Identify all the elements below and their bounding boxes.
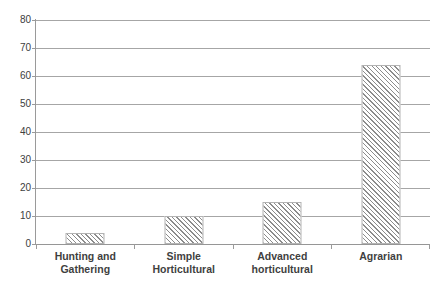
category-tick-3 (331, 244, 332, 249)
x-label-agrarian: Agrarian (332, 250, 431, 263)
y-tick-label-80: 80 (3, 15, 31, 25)
y-tick-label-60: 60 (3, 71, 31, 81)
y-tick-label-70: 70 (3, 43, 31, 53)
y-tick-label-40: 40 (3, 127, 31, 137)
x-label-line-1: Agrarian (332, 250, 431, 263)
y-tick-label-10: 10 (3, 211, 31, 221)
bar-band-advanced-horticultural (233, 20, 332, 244)
x-label-line-2: horticultural (233, 263, 332, 276)
category-tick-0 (36, 244, 37, 249)
bar-band-simple-horticultural (135, 20, 234, 244)
y-tick-label-20: 20 (3, 183, 31, 193)
plot-area (36, 20, 430, 244)
x-label-line-1: Hunting and (36, 250, 135, 263)
category-tick-2 (233, 244, 234, 249)
x-axis-labels: Hunting and Gathering Simple Horticultur… (36, 250, 430, 288)
y-tick-label-0: 0 (3, 239, 31, 249)
x-label-hunting-and-gathering: Hunting and Gathering (36, 250, 135, 276)
bar-band-hunting-and-gathering (36, 20, 135, 244)
category-tick-4 (429, 244, 430, 249)
bar-agrarian (361, 65, 400, 244)
x-label-advanced-horticultural: Advanced horticultural (233, 250, 332, 276)
x-label-line-1: Advanced (233, 250, 332, 263)
bar-advanced-horticultural (263, 202, 302, 244)
bar-chart: 80 70 60 50 40 30 20 10 0 (0, 0, 440, 289)
bar-band-agrarian (332, 20, 431, 244)
bar-simple-horticultural (164, 216, 203, 244)
x-label-line-1: Simple Horticultural (135, 250, 234, 276)
y-axis-tick-labels: 80 70 60 50 40 30 20 10 0 (0, 0, 31, 289)
y-tick-label-50: 50 (3, 99, 31, 109)
x-label-simple-horticultural: Simple Horticultural (135, 250, 234, 276)
bar-hunting-and-gathering (66, 233, 105, 244)
y-tick-label-30: 30 (3, 155, 31, 165)
x-label-line-2: Gathering (36, 263, 135, 276)
category-tick-1 (134, 244, 135, 249)
